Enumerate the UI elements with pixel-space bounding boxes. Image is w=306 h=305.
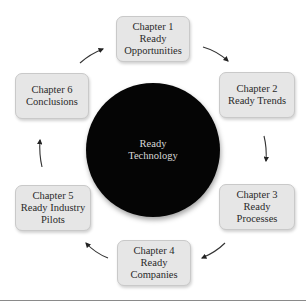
hub-line: Ready xyxy=(140,138,167,150)
chapter-label: Chapter 3 xyxy=(236,189,277,201)
chapter-title: Opportunities xyxy=(124,45,182,57)
arrow-ch2-to-ch3 xyxy=(264,136,266,161)
chapter-title: Ready Trends xyxy=(228,95,286,107)
chapter-label: Chapter 6 xyxy=(31,84,72,96)
arrow-ch4-to-ch5 xyxy=(86,243,108,258)
chapter-title: Pilots xyxy=(41,214,65,226)
arrow-ch3-to-ch4 xyxy=(202,243,225,258)
chapter-title: Ready Industry xyxy=(21,202,85,214)
chapter-title: Ready xyxy=(141,257,168,269)
bottom-divider xyxy=(0,300,306,301)
center-hub-ready-technology: Ready Technology xyxy=(86,83,220,217)
chapter-title: Processes xyxy=(237,213,278,225)
chapter-label: Chapter 5 xyxy=(32,190,73,202)
chapter-title: Ready xyxy=(244,201,271,213)
chapter-label: Chapter 2 xyxy=(236,83,277,95)
chapter-5-box: Chapter 5 Ready Industry Pilots xyxy=(15,185,91,231)
chapter-1-box: Chapter 1 Ready Opportunities xyxy=(116,16,190,62)
arrow-ch1-to-ch2 xyxy=(203,47,228,61)
chapter-label: Chapter 1 xyxy=(132,21,173,33)
chapter-title: Ready xyxy=(140,33,167,45)
chapter-3-box: Chapter 3 Ready Processes xyxy=(219,184,295,230)
chapter-6-box: Chapter 6 Conclusions xyxy=(15,73,89,119)
hub-line: Technology xyxy=(128,150,177,162)
chapter-title: Companies xyxy=(130,269,177,281)
arrow-ch6-to-ch1 xyxy=(80,49,103,63)
chapter-4-box: Chapter 4 Ready Companies xyxy=(117,240,191,286)
arrow-ch5-to-ch6 xyxy=(40,140,42,167)
chapter-2-box: Chapter 2 Ready Trends xyxy=(219,72,295,118)
chapter-title: Conclusions xyxy=(26,96,78,108)
chapter-label: Chapter 4 xyxy=(133,245,174,257)
